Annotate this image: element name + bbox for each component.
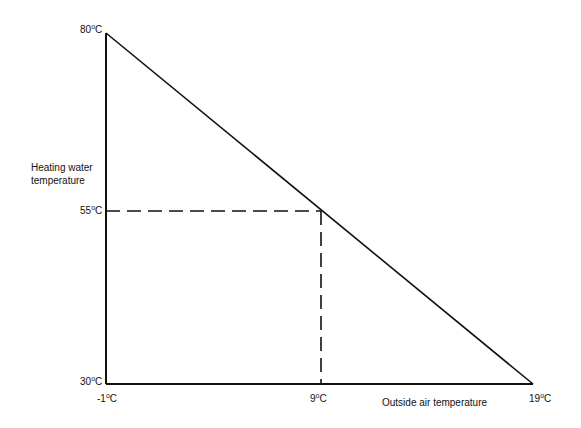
y-tick-80: 80oC (80, 24, 102, 36)
x-tick-minus1: -1oC (97, 393, 117, 405)
degree-symbol: o (540, 392, 544, 399)
y-tick-30-value: 30 (80, 376, 91, 387)
degree-symbol: o (91, 23, 95, 30)
x-tick-9-value: 9 (310, 393, 316, 404)
unit: C (95, 24, 102, 35)
y-tick-55-value: 55 (80, 205, 91, 216)
degree-symbol: o (91, 375, 95, 382)
degree-symbol: o (316, 392, 320, 399)
y-tick-80-value: 80 (80, 24, 91, 35)
x-tick-19-value: 19 (529, 393, 540, 404)
y-axis-label-line1: Heating water (31, 161, 93, 174)
unit: C (95, 376, 102, 387)
y-axis-label: Heating water temperature (31, 161, 93, 187)
x-tick-19: 19oC (529, 393, 551, 405)
heating-curve-line (106, 33, 533, 384)
unit: C (95, 205, 102, 216)
degree-symbol: o (91, 204, 95, 211)
x-axis-label: Outside air temperature (382, 397, 487, 409)
y-tick-30: 30oC (80, 376, 102, 388)
unit: C (319, 393, 326, 404)
unit: C (110, 393, 117, 404)
y-tick-55: 55oC (80, 205, 102, 217)
unit: C (544, 393, 551, 404)
x-tick-9: 9oC (310, 393, 327, 405)
x-tick-minus1-value: -1 (97, 393, 106, 404)
degree-symbol: o (106, 392, 110, 399)
y-axis-label-line2: temperature (31, 174, 93, 187)
